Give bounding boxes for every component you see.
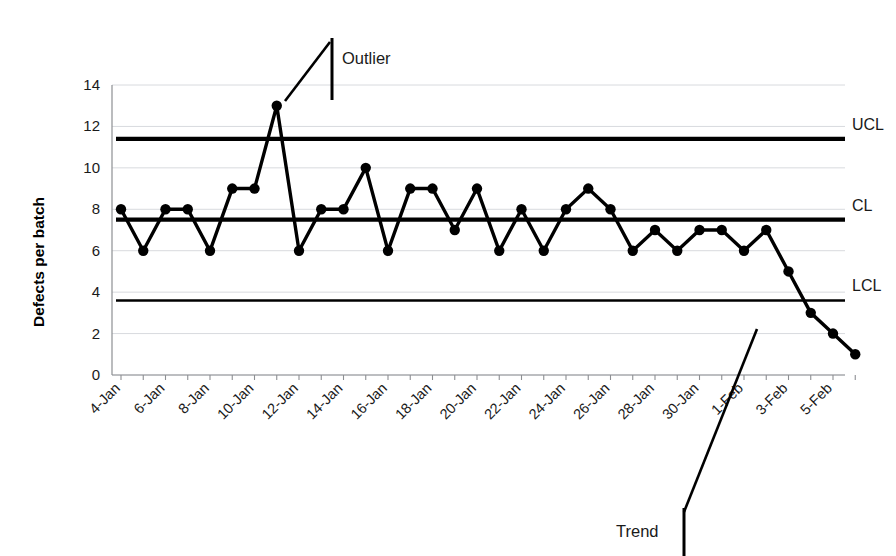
data-point-marker	[361, 163, 371, 173]
cl-label: CL	[852, 197, 873, 214]
x-tick-label: 10-Jan	[214, 380, 257, 423]
data-point-marker	[717, 225, 727, 235]
data-point-marker	[450, 225, 460, 235]
x-tick-label: 1-Feb	[708, 380, 746, 418]
trend-annotation-label: Trend	[616, 522, 659, 540]
data-point-marker	[405, 183, 415, 193]
y-axis-title-group: Defects per batch	[30, 197, 47, 327]
x-tick-label: 5-Feb	[797, 380, 835, 418]
data-point-marker	[761, 225, 771, 235]
data-point-marker	[516, 204, 526, 214]
y-tick-labels-group: 02468101214	[83, 76, 100, 383]
x-tick-label: 26-Jan	[570, 380, 613, 423]
control-chart-svg: 02468101214 Defects per batch UCLCLLCL 4…	[0, 0, 896, 556]
data-point-marker	[783, 266, 793, 276]
data-point-marker	[605, 204, 615, 214]
y-tick-label: 10	[83, 159, 100, 176]
x-tick-label: 12-Jan	[258, 380, 301, 423]
data-point-marker	[249, 183, 259, 193]
data-point-marker	[583, 183, 593, 193]
data-point-marker	[160, 204, 170, 214]
lcl-label: LCL	[852, 277, 881, 294]
data-point-marker	[828, 328, 838, 338]
trend-leader-line	[684, 329, 757, 512]
data-point-marker	[316, 204, 326, 214]
x-tick-label: 30-Jan	[659, 380, 702, 423]
data-point-marker	[272, 101, 282, 111]
data-point-marker	[427, 183, 437, 193]
control-limit-lines-group	[116, 139, 845, 301]
ucl-label: UCL	[852, 116, 884, 133]
y-tick-label: 2	[92, 325, 100, 342]
data-point-marker	[672, 246, 682, 256]
control-chart-figure: 02468101214 Defects per batch UCLCLLCL 4…	[0, 0, 896, 556]
data-point-marker	[205, 246, 215, 256]
data-point-marker	[806, 308, 816, 318]
data-point-marker	[183, 204, 193, 214]
x-tick-label: 6-Jan	[131, 380, 168, 417]
data-point-marker	[561, 204, 571, 214]
data-point-marker	[383, 246, 393, 256]
data-point-marker	[472, 183, 482, 193]
x-tick-label: 22-Jan	[481, 380, 524, 423]
y-tick-label: 8	[92, 200, 100, 217]
annotation-outlier: Outlier	[285, 38, 391, 101]
y-tick-label: 4	[92, 283, 100, 300]
series-line-group	[121, 106, 855, 355]
x-tick-label: 14-Jan	[303, 380, 346, 423]
defects-series-line	[121, 106, 855, 355]
data-point-marker	[294, 246, 304, 256]
data-point-marker	[116, 204, 126, 214]
control-limit-labels-group: UCLCLLCL	[852, 116, 884, 295]
y-tick-label: 0	[92, 366, 100, 383]
y-tick-label: 14	[83, 76, 100, 93]
y-axis-title: Defects per batch	[30, 197, 47, 327]
y-tick-label: 12	[83, 117, 100, 134]
x-tick-marks-group	[121, 375, 855, 380]
y-tick-label: 6	[92, 242, 100, 259]
x-tick-label: 3-Feb	[753, 380, 791, 418]
annotation-trend: Trend	[616, 329, 757, 556]
data-point-marker	[494, 246, 504, 256]
data-point-marker	[694, 225, 704, 235]
x-tick-label: 4-Jan	[86, 380, 123, 417]
data-point-marker	[227, 183, 237, 193]
outlier-annotation-label: Outlier	[342, 49, 391, 67]
gridlines-group	[112, 85, 845, 375]
data-point-marker	[138, 246, 148, 256]
data-point-marker	[338, 204, 348, 214]
x-tick-label: 16-Jan	[347, 380, 390, 423]
x-tick-label: 24-Jan	[525, 380, 568, 423]
x-tick-label: 8-Jan	[175, 380, 212, 417]
data-point-marker	[850, 349, 860, 359]
x-tick-label: 18-Jan	[392, 380, 435, 423]
data-point-marker	[650, 225, 660, 235]
data-point-marker	[628, 246, 638, 256]
axes-group	[112, 85, 845, 375]
outlier-leader-line	[285, 42, 330, 101]
data-point-marker	[539, 246, 549, 256]
data-point-marker	[739, 246, 749, 256]
x-tick-label: 20-Jan	[436, 380, 479, 423]
x-tick-label: 28-Jan	[614, 380, 657, 423]
